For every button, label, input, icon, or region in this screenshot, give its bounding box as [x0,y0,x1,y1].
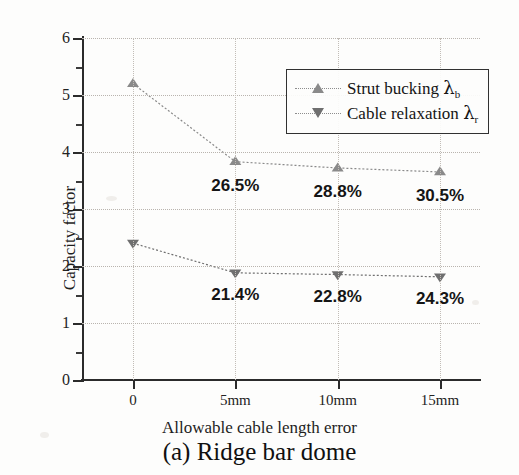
gridline-horizontal [82,152,480,153]
gridline-horizontal [82,209,480,210]
legend: Strut bucking λb Cable relaxation λr [286,69,489,134]
scan-artifact [472,300,479,305]
y-axis-minor-tick [76,181,82,183]
scan-artifact [40,432,49,438]
data-point-annotation: 26.5% [211,176,259,196]
figure-caption: (a) Ridge bar dome [0,438,519,466]
y-axis-tick [73,38,82,40]
data-point-annotation: 21.4% [211,285,259,305]
y-axis-minor-tick [76,352,82,354]
y-axis-tick [73,95,82,97]
x-axis-tick [235,380,237,389]
y-axis-tick-label: 1 [62,315,70,331]
y-axis-tick [73,323,82,325]
legend-label-cable-relaxation: Cable relaxation λr [347,102,478,125]
x-axis-tick [440,380,442,389]
legend-label-strut-bucking: Strut bucking λb [347,77,460,100]
series-line-cable-relaxation [133,243,440,277]
x-axis-tick-label: 5mm [220,393,251,408]
gridline-horizontal [82,38,480,39]
gridline-horizontal [82,323,480,324]
legend-marker-triangle-down-icon [295,107,341,121]
y-axis-title: Capacity factor [60,185,80,289]
legend-item-cable-relaxation[interactable]: Cable relaxation λr [295,101,480,126]
data-point-annotation: 30.5% [416,186,464,206]
x-axis-tick [133,380,135,389]
y-axis-minor-tick [76,67,82,69]
x-axis-tick [338,380,340,389]
y-axis-minor-tick [76,295,82,297]
y-axis-tick-label: 5 [62,87,70,103]
gridline-vertical [235,38,236,380]
x-axis-tick-label: 0 [129,393,137,408]
x-axis-tick-label: 15mm [421,393,459,408]
data-point-annotation: 24.3% [416,289,464,309]
scan-artifact [106,196,117,201]
x-axis-title: Allowable cable length error [0,418,519,438]
gridline-horizontal [82,266,480,267]
y-axis-tick-label: 0 [62,372,70,388]
data-point-annotation: 22.8% [314,287,362,307]
legend-item-strut-bucking[interactable]: Strut bucking λb [295,76,480,101]
figure-ridge-bar-dome: 012345605mm10mm15mm26.5%28.8%30.5%21.4%2… [0,0,519,475]
data-point-annotation: 28.8% [314,182,362,202]
x-axis-tick-label: 10mm [318,393,356,408]
y-axis-tick [73,152,82,154]
y-axis-minor-tick [76,124,82,126]
legend-marker-triangle-up-icon [295,82,341,96]
y-axis-tick-label: 6 [62,30,70,46]
y-axis-tick [73,380,82,382]
gridline-vertical [133,38,134,380]
y-axis-tick-label: 4 [62,144,70,160]
